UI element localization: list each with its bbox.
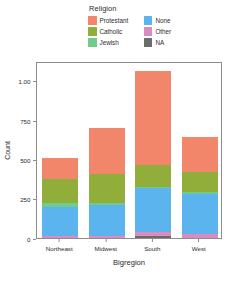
legend-item-label: NA bbox=[155, 39, 164, 47]
legend-item-catholic[interactable]: Catholic bbox=[88, 27, 137, 36]
bar-segment-other[interactable] bbox=[182, 234, 218, 238]
bar-midwest[interactable] bbox=[89, 128, 125, 238]
legend-column-left: Protestant Catholic Jewish bbox=[88, 16, 137, 47]
y-axis-tick-label: 1.00 bbox=[18, 78, 33, 85]
bars-layer bbox=[37, 63, 221, 238]
legend-entries: Protestant Catholic Jewish None bbox=[88, 16, 180, 47]
x-axis-title: Bigregion bbox=[36, 258, 222, 267]
bar-segment-catholic[interactable] bbox=[42, 179, 78, 203]
bar-segment-other[interactable] bbox=[42, 236, 78, 238]
legend-item-label: Catholic bbox=[100, 28, 123, 36]
legend-item-none[interactable]: None bbox=[144, 16, 180, 25]
x-axis-tick: Northeast bbox=[46, 239, 73, 252]
chart-legend: Religion Protestant Catholic Jewish bbox=[88, 4, 180, 47]
y-axis-tick-label: 250 bbox=[20, 196, 33, 203]
x-axis-tick-label: South bbox=[144, 245, 160, 252]
legend-swatch-icon bbox=[144, 27, 153, 36]
bar-northeast[interactable] bbox=[42, 158, 78, 238]
legend-swatch-icon bbox=[88, 38, 97, 47]
bar-segment-protestant[interactable] bbox=[89, 128, 125, 174]
legend-item-label: Protestant bbox=[100, 17, 129, 25]
y-axis-tick-label: 750 bbox=[20, 118, 33, 125]
legend-item-jewish[interactable]: Jewish bbox=[88, 38, 137, 47]
x-axis-tick-mark bbox=[198, 239, 199, 242]
bar-segment-protestant[interactable] bbox=[182, 137, 218, 172]
legend-swatch-icon bbox=[88, 27, 97, 36]
y-axis-tick-label: 500 bbox=[20, 157, 33, 164]
plot-area bbox=[36, 62, 222, 239]
legend-swatch-icon bbox=[88, 16, 97, 25]
bar-segment-catholic[interactable] bbox=[135, 165, 171, 186]
legend-title: Religion bbox=[89, 4, 180, 13]
legend-item-label: None bbox=[155, 17, 170, 25]
x-axis-tick-mark bbox=[152, 239, 153, 242]
x-axis-tick-label: West bbox=[192, 245, 206, 252]
bar-south[interactable] bbox=[135, 71, 171, 238]
x-axis-tick-label: Northeast bbox=[46, 245, 73, 252]
x-axis-tick-label: Midwest bbox=[94, 245, 117, 252]
bar-segment-none[interactable] bbox=[89, 205, 125, 236]
legend-item-label: Other bbox=[155, 28, 171, 36]
bar-segment-catholic[interactable] bbox=[182, 172, 218, 192]
legend-swatch-icon bbox=[144, 38, 153, 47]
y-axis: 02505007501.00 bbox=[0, 62, 36, 239]
legend-item-label: Jewish bbox=[100, 39, 119, 47]
bar-segment-none[interactable] bbox=[42, 207, 78, 235]
bar-segment-other[interactable] bbox=[89, 236, 125, 238]
x-axis: NortheastMidwestSouthWest bbox=[36, 239, 222, 257]
legend-item-other[interactable]: Other bbox=[144, 27, 180, 36]
bar-segment-protestant[interactable] bbox=[135, 71, 171, 165]
legend-column-right: None Other NA bbox=[144, 16, 180, 47]
bar-segment-none[interactable] bbox=[182, 194, 218, 234]
x-axis-tick-mark bbox=[105, 239, 106, 242]
x-axis-tick: West bbox=[192, 239, 206, 252]
bar-segment-na[interactable] bbox=[135, 236, 171, 238]
bar-segment-none[interactable] bbox=[135, 188, 171, 232]
stacked-bar-chart: Religion Protestant Catholic Jewish bbox=[0, 0, 232, 282]
bar-segment-protestant[interactable] bbox=[42, 158, 78, 179]
bar-segment-catholic[interactable] bbox=[89, 174, 125, 204]
x-axis-tick: South bbox=[144, 239, 160, 252]
x-axis-tick-mark bbox=[59, 239, 60, 242]
legend-swatch-icon bbox=[144, 16, 153, 25]
bar-west[interactable] bbox=[182, 137, 218, 238]
x-axis-tick: Midwest bbox=[94, 239, 117, 252]
legend-item-protestant[interactable]: Protestant bbox=[88, 16, 137, 25]
legend-item-na[interactable]: NA bbox=[144, 38, 180, 47]
